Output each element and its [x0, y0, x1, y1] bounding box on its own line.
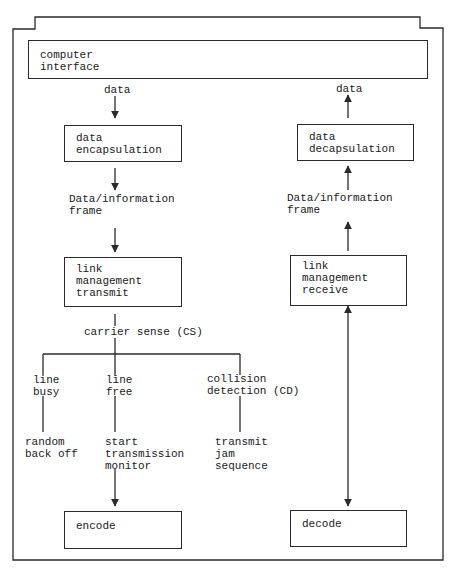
random-back-off-label: random back off — [25, 436, 78, 460]
link-management-receive-box: link management receive — [290, 255, 407, 306]
link-management-transmit-box: link management transmit — [64, 257, 182, 307]
data-decapsulation-box: data decapsulation — [297, 124, 414, 161]
data-encapsulation-label: data encapsulation — [65, 126, 181, 156]
computer-interface-label: computer interface — [29, 41, 427, 73]
receive-frame-label: Data/information frame — [287, 192, 393, 216]
branch-collision-detection-label: collision detection (CD) — [207, 373, 299, 397]
computer-interface-box: computer interface — [28, 40, 428, 79]
branch-line-busy-label: line busy — [33, 374, 59, 398]
receive-data-label: data — [336, 83, 362, 95]
carrier-sense-label: carrier sense (CS) — [83, 326, 204, 338]
encode-box: encode — [64, 511, 182, 549]
transmit-jam-sequence-label: transmit jam sequence — [215, 436, 268, 472]
data-decapsulation-label: data decapsulation — [298, 125, 413, 155]
transmit-data-label: data — [104, 84, 130, 96]
link-management-receive-label: link management receive — [291, 256, 406, 296]
decode-box: decode — [290, 510, 407, 547]
link-management-transmit-label: link management transmit — [65, 258, 181, 299]
branch-line-free-label: line free — [106, 374, 132, 398]
start-transmission-monitor-label: start transmission monitor — [105, 436, 184, 472]
transmit-frame-label: Data/information frame — [69, 193, 175, 217]
encode-label: encode — [65, 512, 181, 532]
decode-label: decode — [291, 511, 406, 530]
data-encapsulation-box: data encapsulation — [64, 125, 182, 162]
